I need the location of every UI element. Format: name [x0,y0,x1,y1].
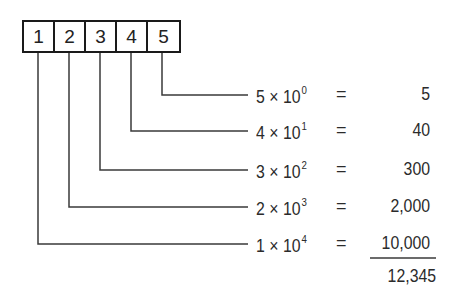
place-value-diagram: 1 2 3 4 5 5 × 100 = 5 4 × 101 = 40 3 × 1… [0,0,462,299]
result-value: 2,000 [390,196,430,217]
connector-digit-4 [131,53,248,131]
expression: 1 × 104 [256,233,307,257]
equals-sign: = [336,120,347,141]
connector-digit-5 [162,53,248,95]
result-value: 10,000 [382,233,430,254]
expression: 4 × 101 [256,120,307,144]
equals-sign: = [336,159,347,180]
result-value: 5 [421,84,430,105]
connector-digit-2 [69,53,248,207]
connector-digit-3 [100,53,248,170]
result-value: 40 [412,120,430,141]
equals-sign: = [336,196,347,217]
expression: 2 × 103 [256,196,307,220]
connector-lines [0,0,462,299]
result-value: 300 [404,159,430,180]
total-sum: 12,345 [388,266,436,287]
equals-sign: = [336,84,347,105]
expression: 5 × 100 [256,84,307,108]
expression: 3 × 102 [256,159,307,183]
equals-sign: = [336,233,347,254]
